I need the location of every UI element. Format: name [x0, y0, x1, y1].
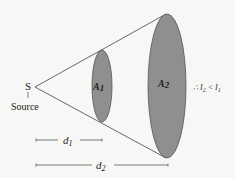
d1-label: d1 [63, 134, 73, 148]
source-label: Source [11, 101, 39, 112]
d2-label: d2 [96, 159, 106, 173]
inverse-square-diagram: S Source A1 A2 ∴ I2 < I1 d1 d2 [0, 0, 235, 178]
d2-dimension: d2 [36, 159, 168, 173]
source-symbol: S [25, 80, 31, 92]
d1-dimension: d1 [36, 134, 102, 148]
area-a1-label: A1 [92, 81, 104, 93]
area-a2-label: A2 [157, 78, 170, 90]
conclusion-text: ∴ I2 < I1 [193, 83, 221, 93]
